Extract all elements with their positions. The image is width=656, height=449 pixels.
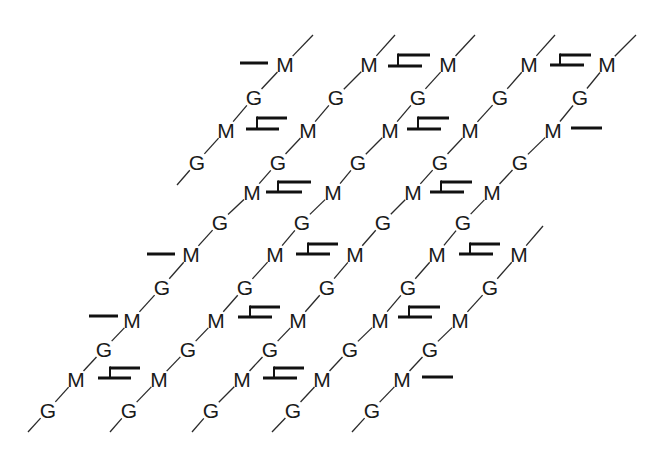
glycosidic-bond-line	[139, 295, 154, 312]
nam-unit-label: M	[360, 53, 378, 76]
nam-unit-label: M	[182, 243, 200, 266]
nag-unit-label: G	[96, 338, 112, 361]
nam-unit-label: M	[393, 368, 411, 391]
nag-unit-label: G	[203, 399, 219, 422]
glycosidic-bond-line	[358, 328, 372, 342]
nag-unit-label: G	[237, 276, 253, 299]
nam-unit-label: M	[299, 119, 317, 142]
nag-unit-label: G	[492, 86, 508, 109]
peptide-crosslinks	[89, 54, 602, 379]
glycosidic-bond-line	[167, 357, 181, 371]
nag-unit-label: G	[262, 338, 278, 361]
nam-unit-label: M	[483, 181, 501, 204]
nag-unit-label: G	[189, 151, 205, 174]
nam-unit-label: M	[598, 53, 616, 76]
nag-unit-label: G	[121, 399, 137, 422]
glycosidic-bond-line	[310, 200, 325, 215]
glycosidic-bond-line	[137, 387, 152, 402]
nam-unit-label: M	[404, 181, 422, 204]
glycosidic-bond-line	[262, 72, 278, 89]
glycosidic-bond-line	[376, 35, 395, 56]
nag-unit-label: G	[455, 211, 471, 234]
nag-unit-label: G	[319, 276, 335, 299]
glycosidic-bond-line	[362, 230, 376, 245]
glycosidic-bond-line	[410, 357, 423, 371]
nag-unit-label: G	[410, 86, 426, 109]
peptide-crosslink	[98, 367, 140, 379]
glycosidic-bond-line	[380, 387, 395, 402]
nag-unit-label: G	[294, 211, 310, 234]
nag-unit-label: G	[432, 151, 448, 174]
peptide-crosslink	[407, 117, 449, 130]
peptidoglycan-diagram: MMMMMGGGGGMMMMMGGGGGMMMMGGGGMMMMMGGGGGMM…	[0, 0, 656, 449]
glycosidic-bond-line	[528, 138, 545, 155]
nam-unit-label: M	[123, 309, 141, 332]
nam-unit-label: M	[243, 181, 261, 204]
nam-unit-label: M	[544, 119, 562, 142]
nam-unit-label: M	[217, 119, 235, 142]
nag-unit-label: G	[328, 86, 344, 109]
glycosidic-bond-line	[272, 418, 285, 432]
nag-unit-label: G	[342, 338, 358, 361]
peptide-crosslink	[398, 306, 440, 318]
glycosidic-bond-line	[250, 357, 263, 371]
glycosidic-bond-line	[223, 295, 237, 311]
peptide-crosslink	[459, 243, 500, 255]
glycosidic-bond-line	[420, 170, 432, 184]
nam-unit-label: M	[428, 243, 446, 266]
glycosidic-bond-line	[293, 35, 313, 56]
nag-unit-label: G	[572, 86, 588, 109]
glycosidic-bond-line	[344, 72, 361, 89]
nag-unit-label: G	[246, 86, 262, 109]
glycosidic-bond-line	[391, 200, 405, 214]
glycosidic-bond-line	[397, 105, 411, 121]
glycosidic-bond-line	[455, 35, 475, 56]
glycosidic-bond-line	[448, 138, 463, 154]
nam-unit-label: M	[381, 119, 399, 142]
glycosidic-bond-line	[467, 295, 482, 312]
nam-unit-label: M	[233, 368, 251, 391]
peptide-crosslink	[430, 181, 472, 193]
glycosidic-bond-line	[500, 170, 513, 184]
nam-unit-label: M	[67, 368, 85, 391]
nag-unit-label: G	[270, 151, 286, 174]
nag-unit-label: G	[180, 338, 196, 361]
peptide-crosslink	[246, 117, 287, 130]
glycosidic-bond-line	[330, 357, 343, 371]
glycosidic-bond-line	[536, 35, 555, 56]
nam-unit-label: M	[451, 309, 469, 332]
glycosidic-bond-line	[315, 105, 329, 121]
nam-unit-label: M	[289, 309, 307, 332]
nag-unit-label: G	[375, 211, 391, 234]
glycosidic-bond-line	[526, 226, 543, 246]
nam-unit-label: M	[150, 368, 168, 391]
glycosidic-bond-line	[387, 295, 401, 311]
glycosidic-bond-line	[228, 200, 244, 215]
nag-unit-label: G	[364, 399, 380, 422]
glycosidic-bond-line	[615, 35, 636, 56]
nag-unit-label: G	[350, 151, 366, 174]
nag-unit-label: G	[512, 151, 528, 174]
glycosidic-bond-line	[438, 328, 452, 342]
nam-unit-label: M	[510, 243, 528, 266]
peptide-crosslink	[238, 306, 280, 318]
nam-unit-label: M	[439, 53, 457, 76]
nam-unit-label: M	[371, 309, 389, 332]
peptide-crosslink	[296, 243, 338, 255]
glycosidic-bond-line	[305, 295, 319, 311]
nag-unit-label: G	[40, 399, 56, 422]
peptide-crosslink	[550, 54, 591, 66]
nag-unit-label: G	[212, 211, 228, 234]
glycosidic-bond-line	[366, 138, 382, 154]
glycosidic-bond-line	[198, 230, 212, 246]
nam-unit-label: M	[520, 53, 538, 76]
glycosidic-bond-line	[477, 105, 492, 122]
nag-unit-label: G	[422, 338, 438, 361]
nam-unit-label: M	[276, 53, 294, 76]
peptide-crosslink	[266, 181, 311, 193]
nam-unit-label: M	[266, 243, 284, 266]
nag-unit-label: G	[400, 276, 416, 299]
nag-unit-label: G	[285, 399, 301, 422]
glycosidic-bond-line	[286, 138, 301, 154]
glycosidic-bond-line	[84, 357, 97, 371]
